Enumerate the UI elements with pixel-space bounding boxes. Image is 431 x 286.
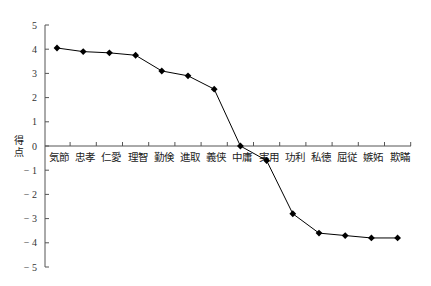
x-category-label: 欺瞞 (390, 151, 410, 163)
data-point-marker (211, 86, 218, 93)
data-point-marker (237, 143, 244, 150)
y-tick-label: 4 (32, 44, 37, 55)
y-tick-label: 0 (32, 141, 37, 152)
data-point-marker (368, 235, 375, 242)
x-category-label: 嫉妬 (363, 151, 383, 163)
y-label-char: 得 (14, 135, 24, 146)
y-label-char: 点 (14, 147, 24, 158)
x-category-label: 屈従 (337, 151, 358, 163)
data-point-marker (54, 45, 61, 52)
line-chart: 543210− 1− 2− 3− 4− 5 得点 気節忠孝仁愛理智勤倹進取義侠中… (0, 0, 431, 286)
x-category-label: 功利 (285, 151, 305, 163)
x-category-label: 気節 (49, 151, 69, 163)
y-tick-label: − 4 (24, 237, 37, 248)
x-category-label: 忠孝 (75, 151, 95, 163)
x-category-label: 義侠 (206, 151, 227, 163)
y-tick-label: − 5 (24, 262, 37, 273)
data-point-marker (132, 52, 139, 59)
data-point-marker (80, 48, 87, 55)
x-category-label: 理智 (128, 151, 148, 163)
y-tick-label: − 1 (24, 165, 37, 176)
y-tick-label: 2 (32, 92, 37, 103)
y-tick-label: − 2 (24, 189, 37, 200)
x-axis: 気節忠孝仁愛理智勤倹進取義侠中庸実用功利私徳屈従嫉妬欺瞞 (45, 142, 411, 163)
data-point-marker (185, 72, 192, 79)
data-point-marker (394, 235, 401, 242)
y-axis-label: 得点 (14, 135, 24, 158)
x-category-label: 仁愛 (101, 151, 121, 163)
data-point-marker (342, 232, 349, 239)
y-tick-label: 1 (32, 116, 37, 127)
y-tick-label: 5 (32, 20, 37, 31)
y-tick-label: 3 (32, 68, 37, 79)
x-category-label: 私徳 (311, 151, 332, 163)
x-category-label: 中庸 (232, 151, 252, 163)
data-point-marker (158, 68, 165, 75)
y-tick-label: − 3 (24, 213, 37, 224)
data-point-marker (106, 49, 113, 56)
x-category-label: 勤倹 (154, 151, 175, 163)
x-category-label: 進取 (180, 151, 201, 163)
